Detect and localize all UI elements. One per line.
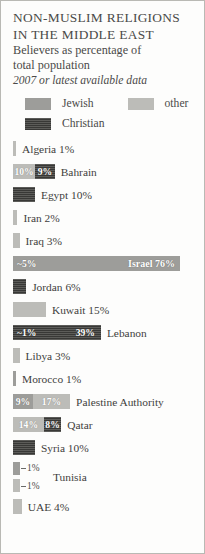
legend-swatch-jewish-icon xyxy=(25,98,51,110)
chart-row: 14%8%Qatar xyxy=(13,413,196,436)
row-label: Iran 2% xyxy=(23,212,59,224)
leader-line xyxy=(21,468,26,469)
segment-value-label: 10% xyxy=(14,167,33,177)
legend-label-christian: Christian xyxy=(62,117,105,130)
chart-row: Kuwait 15% xyxy=(13,298,196,321)
bar-segment-other: 14% xyxy=(13,417,44,432)
leader-line xyxy=(21,486,26,487)
segment-value-label: 1% xyxy=(21,481,40,491)
bar-group: 14%8% xyxy=(13,417,61,432)
bar-group xyxy=(13,279,26,294)
chart-row: Libya 3% xyxy=(13,344,196,367)
bar-segment-other xyxy=(13,479,20,492)
bar-callouts: 1%1% xyxy=(21,462,51,492)
subtitle-line-1: Believers as percentage of xyxy=(13,43,196,58)
bar-group xyxy=(13,302,46,317)
legend-item-jewish: Jewish xyxy=(25,97,94,110)
segment-value-label: 9% xyxy=(38,167,52,177)
segment-value-label: 17% xyxy=(42,397,61,407)
bar-segment-other xyxy=(13,141,16,156)
chart-row: ~5%Israel 76% xyxy=(13,252,196,275)
chart-row: Jordan 6% xyxy=(13,275,196,298)
row-label: Morocco 1% xyxy=(22,373,81,385)
bar-group xyxy=(13,348,20,363)
row-label: Iraq 3% xyxy=(26,235,62,247)
bar-group xyxy=(13,499,22,514)
bar-segment-other: 10% xyxy=(13,164,35,179)
segment-value-label: 9% xyxy=(16,397,30,407)
row-label: Tunisia xyxy=(53,471,87,483)
chart-legend: Jewish other Christian xyxy=(25,95,196,132)
legend-item-christian: Christian xyxy=(25,117,105,130)
chart-row: 1%1%Tunisia xyxy=(13,459,196,495)
segment-value-label: 1% xyxy=(21,463,40,473)
row-label: Libya 3% xyxy=(26,350,71,362)
segment-value-label-secondary: 39% xyxy=(76,328,95,338)
bar-segment-christian: ~1%39% xyxy=(13,325,101,340)
page-title-line-1: NON-MUSLIM RELIGIONS xyxy=(13,10,196,27)
page-title-line-2: IN THE MIDDLE EAST xyxy=(13,27,196,44)
legend-row-bottom: Christian xyxy=(25,115,196,132)
row-label: Lebanon xyxy=(107,327,147,339)
bar-group xyxy=(13,141,16,156)
row-label: Bahrain xyxy=(61,166,97,178)
bar-segment-christian xyxy=(13,440,35,455)
row-label: UAE 4% xyxy=(28,501,69,513)
bar-group: ~1%39% xyxy=(13,325,101,340)
chart-row: 9%17%Palestine Authority xyxy=(13,390,196,413)
chart-row: Algeria 1% xyxy=(13,137,196,160)
bar-segment-christian xyxy=(13,187,35,202)
bar-group xyxy=(13,233,20,248)
bar-group: ~5%Israel 76% xyxy=(13,256,180,271)
segment-value-label: 14% xyxy=(19,420,38,430)
bar-group xyxy=(13,210,17,225)
row-label: Qatar xyxy=(67,419,92,431)
legend-swatch-other-icon xyxy=(128,98,154,110)
chart-row: ~1%39%Lebanon xyxy=(13,321,196,344)
bar-segment-other xyxy=(13,348,20,363)
bar-group xyxy=(13,440,35,455)
bar-group xyxy=(13,187,35,202)
row-label: Jordan 6% xyxy=(32,281,80,293)
row-label: Egypt 10% xyxy=(41,189,92,201)
chart-rows: Algeria 1%10%9%BahrainEgypt 10%Iran 2%Ir… xyxy=(13,137,196,518)
chart-row: Egypt 10% xyxy=(13,183,196,206)
row-label: Syria 10% xyxy=(41,442,89,454)
legend-item-other: other xyxy=(128,97,189,110)
bar-segment-other xyxy=(13,210,17,225)
legend-swatch-christian-icon xyxy=(25,118,51,130)
segment-value-label: ~5% xyxy=(17,259,36,269)
row-label: Palestine Authority xyxy=(76,396,164,408)
source-note: 2007 or latest available data xyxy=(13,73,196,88)
bar-segment-jewish: ~5%Israel 76% xyxy=(13,256,180,271)
chart-row: UAE 4% xyxy=(13,495,196,518)
row-label: Kuwait 15% xyxy=(52,304,109,316)
bar-segment-christian: 8% xyxy=(44,417,62,432)
bar-group: 9%17% xyxy=(13,394,70,409)
bar-segment-other xyxy=(13,499,22,514)
bar-group xyxy=(13,371,16,386)
legend-row-top: Jewish other xyxy=(25,95,196,112)
bar-segment-christian: 9% xyxy=(35,164,55,179)
bar-group xyxy=(13,462,20,492)
title-block: NON-MUSLIM RELIGIONS IN THE MIDDLE EAST … xyxy=(13,10,196,88)
row-label: Algeria 1% xyxy=(22,143,74,155)
infographic-card: NON-MUSLIM RELIGIONS IN THE MIDDLE EAST … xyxy=(0,0,205,554)
bar-segment-christian xyxy=(13,279,26,294)
legend-label-jewish: Jewish xyxy=(62,97,94,110)
chart-row: Iran 2% xyxy=(13,206,196,229)
legend-label-other: other xyxy=(165,97,189,110)
segment-value-label: ~1% xyxy=(17,328,36,338)
segment-value-label: 8% xyxy=(45,420,59,430)
bar-segment-other xyxy=(13,233,20,248)
bar-group: 10%9% xyxy=(13,164,55,179)
chart-row: 10%9%Bahrain xyxy=(13,160,196,183)
chart-row: Syria 10% xyxy=(13,436,196,459)
bar-segment-jewish xyxy=(13,371,16,386)
bar-segment-other: 17% xyxy=(33,394,70,409)
bar-segment-jewish: 9% xyxy=(13,394,33,409)
row-label: Israel 76% xyxy=(128,258,175,269)
bar-segment-jewish xyxy=(13,462,20,475)
subtitle-line-2: total population xyxy=(13,58,196,73)
chart-row: Morocco 1% xyxy=(13,367,196,390)
